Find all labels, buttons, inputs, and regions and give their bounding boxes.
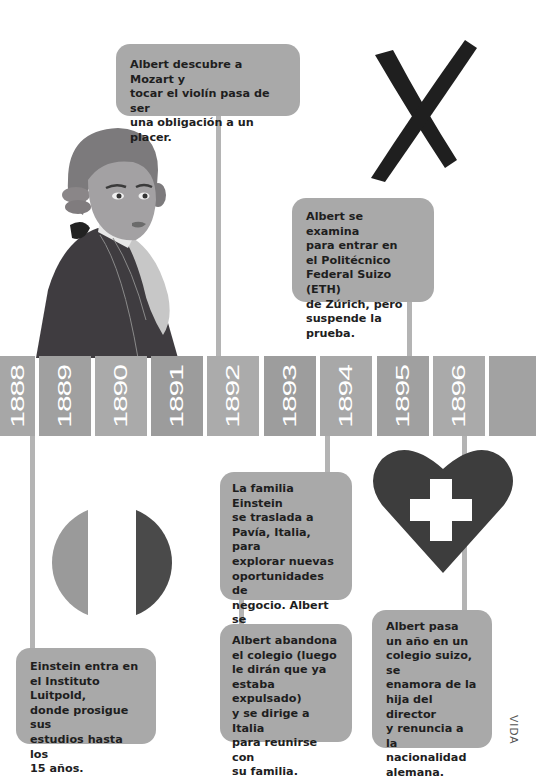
connector-1892	[216, 116, 221, 358]
connector-1888	[30, 434, 35, 654]
year-label: 1890	[110, 365, 131, 428]
event-box-abandona: Albert abandona el colegio (luego le dir…	[220, 624, 352, 742]
event-text-luitpold: Einstein entra en el Instituto Luitpold,…	[30, 660, 142, 777]
year-label: 1895	[392, 365, 413, 428]
x-mark-icon	[365, 30, 480, 190]
year-cell-1895: 1895	[377, 356, 429, 436]
year-cell-1888: 1888	[0, 356, 35, 436]
event-box-luitpold: Einstein entra en el Instituto Luitpold,…	[16, 648, 156, 744]
connector-1894	[325, 434, 330, 474]
event-box-mozart: Albert descubre a Mozart y tocar el viol…	[116, 44, 300, 116]
year-cell-1896: 1896	[433, 356, 485, 436]
event-text-eth: Albert se examina para entrar en el Poli…	[306, 210, 420, 341]
event-text-suizo: Albert pasa un año en un colegio suizo, …	[386, 620, 478, 780]
year-label: 1889	[54, 365, 75, 428]
event-box-suizo: Albert pasa un año en un colegio suizo, …	[372, 610, 492, 748]
year-cell-1893: 1893	[264, 356, 316, 436]
event-text-abandona: Albert abandona el colegio (luego le dir…	[232, 634, 340, 780]
year-cell-1892: 1892	[207, 356, 259, 436]
year-cell-1894: 1894	[320, 356, 372, 436]
timeline-bar: 188818891890189118921893189418951896	[0, 356, 536, 436]
year-label: 1894	[335, 365, 356, 428]
year-label: 1888	[7, 365, 28, 428]
event-box-pavia: La familia Einstein se traslada a Pavía,…	[220, 472, 352, 600]
year-label: 1893	[279, 365, 300, 428]
year-cell-1890: 1890	[95, 356, 147, 436]
year-label: 1891	[166, 365, 187, 428]
section-label: VIDA	[508, 715, 520, 745]
event-text-mozart: Albert descubre a Mozart y tocar el viol…	[130, 58, 286, 146]
year-cell-1889: 1889	[39, 356, 91, 436]
year-cell-1891: 1891	[151, 356, 203, 436]
year-label: 1892	[222, 365, 243, 428]
year-cell-blank	[489, 356, 536, 436]
event-box-eth: Albert se examina para entrar en el Poli…	[292, 198, 434, 302]
swiss-heart-icon	[372, 445, 514, 573]
year-label: 1896	[448, 365, 469, 428]
mozart-portrait	[28, 120, 188, 358]
italy-flag-icon	[52, 505, 172, 620]
